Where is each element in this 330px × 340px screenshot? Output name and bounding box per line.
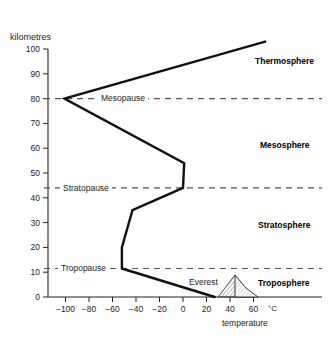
everest-label: Everest	[189, 278, 218, 287]
y-tick-label: 90	[18, 70, 40, 79]
y-tick-label: 40	[18, 194, 40, 203]
layer-label-stratosphere: Stratosphere	[258, 221, 310, 230]
y-tick-label: 100	[18, 45, 40, 54]
layer-label-troposphere: Troposphere	[258, 279, 309, 288]
x-tick-label: 60	[239, 305, 269, 314]
y-tick-label: 70	[18, 119, 40, 128]
y-tick-label: 0	[18, 293, 40, 302]
temperature-profile-line	[64, 42, 265, 297]
y-tick-label: 20	[18, 243, 40, 252]
chart-canvas	[0, 0, 330, 340]
axis-lines	[48, 49, 322, 297]
tropopause-label: Tropopause	[58, 264, 109, 273]
layer-label-mesosphere: Mesosphere	[260, 141, 310, 150]
x-axis-title: temperature	[222, 319, 268, 328]
mesopause-label: Mesopause	[98, 94, 148, 103]
x-axis-ticks	[66, 297, 254, 302]
everest-mountain-icon	[218, 275, 258, 297]
x-axis-unit-label: °C	[268, 305, 277, 313]
y-axis-ticks	[43, 49, 48, 297]
y-tick-label: 10	[18, 268, 40, 277]
y-axis-title: kilometres	[10, 33, 51, 42]
y-tick-label: 30	[18, 219, 40, 228]
y-tick-label: 50	[18, 169, 40, 178]
layer-label-thermosphere: Thermosphere	[255, 57, 314, 66]
y-tick-label: 80	[18, 95, 40, 104]
y-tick-label: 60	[18, 144, 40, 153]
stratopause-label: Stratopause	[60, 184, 112, 193]
atmosphere-temperature-chart: kilometres 100 90 80 70 60 50 40 30 20 1…	[0, 0, 330, 340]
